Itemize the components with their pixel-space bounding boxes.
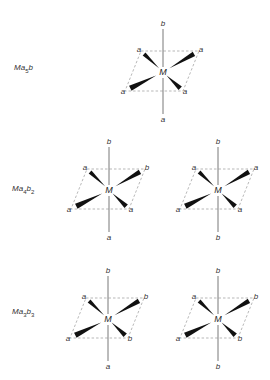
wedge-bond-top-left [198, 170, 214, 186]
octahedron-structure: Mbaabab [66, 266, 149, 371]
ligand-label-bottom: a [107, 233, 112, 242]
ligand-label-top: b [107, 137, 112, 146]
ligand-label-top-left: a [137, 45, 142, 54]
ligand-label-top-right: a [199, 45, 204, 54]
wedge-bond-bottom-left [74, 322, 101, 337]
octahedron-structure: Mbbaaaa [176, 137, 259, 242]
wedge-bond-bottom-right [113, 193, 128, 208]
ligand-label-top: b [216, 266, 221, 275]
wedge-bond-top-right [169, 52, 195, 68]
ligand-label-bottom-left: a [176, 205, 181, 214]
ligand-label-bottom-left: a [67, 205, 72, 214]
ligand-label-bottom: a [161, 115, 166, 124]
ligand-label-top-left: a [82, 292, 87, 301]
wedge-bond-bottom-left [129, 75, 156, 90]
ligand-label-top-right: a [254, 163, 259, 172]
ligand-label-top-left: a [192, 163, 197, 172]
ligand-label-bottom-left: a [176, 334, 181, 343]
wedge-bond-bottom-right [167, 75, 182, 90]
ligand-label-bottom-left: a [66, 334, 71, 343]
wedge-bond-bottom-left [184, 322, 211, 337]
wedge-bond-bottom-right [222, 193, 237, 208]
wedge-bond-top-left [143, 52, 159, 68]
ligand-label-top-left: a [192, 292, 197, 301]
wedge-bond-top-left [88, 299, 104, 315]
metal-label: M [214, 314, 222, 324]
octahedron-structure: Mbaaaaa [121, 19, 204, 124]
metal-label: M [214, 185, 222, 195]
wedge-bond-bottom-right [112, 322, 127, 337]
wedge-bond-bottom-left [184, 193, 211, 208]
wedge-bond-bottom-left [75, 193, 102, 208]
wedge-bond-top-right [114, 299, 140, 315]
ligand-label-bottom: a [106, 362, 111, 371]
octahedral-diagram-canvas: MbaaaaaMbaabaaMbbaaaaMbaababMbbabab [0, 0, 270, 380]
ligand-label-top: b [161, 19, 166, 28]
ligand-label-top-right: b [254, 292, 259, 301]
wedge-bond-top-right [224, 170, 250, 186]
wedge-bond-top-left [89, 170, 105, 186]
wedge-bond-top-right [115, 170, 141, 186]
ligand-label-bottom-right: b [128, 334, 133, 343]
ligand-label-top: b [216, 137, 221, 146]
metal-label: M [104, 314, 112, 324]
ligand-label-bottom-right: b [238, 334, 243, 343]
octahedron-structure: Mbaabaa [67, 137, 150, 242]
metal-label: M [105, 185, 113, 195]
wedge-bond-bottom-right [222, 322, 237, 337]
octahedron-structure: Mbbabab [176, 266, 259, 371]
ligand-label-bottom: b [216, 233, 221, 242]
wedge-bond-top-left [198, 299, 214, 315]
ligand-label-top-left: a [83, 163, 88, 172]
ligand-label-bottom-left: a [121, 87, 126, 96]
ligand-label-bottom-right: a [183, 87, 188, 96]
ligand-label-bottom-right: a [129, 205, 134, 214]
ligand-label-bottom: b [216, 362, 221, 371]
wedge-bond-top-right [224, 299, 250, 315]
ligand-label-top: b [106, 266, 111, 275]
ligand-label-top-right: b [144, 292, 149, 301]
metal-label: M [159, 67, 167, 77]
ligand-label-bottom-right: a [238, 205, 243, 214]
ligand-label-top-right: b [145, 163, 150, 172]
